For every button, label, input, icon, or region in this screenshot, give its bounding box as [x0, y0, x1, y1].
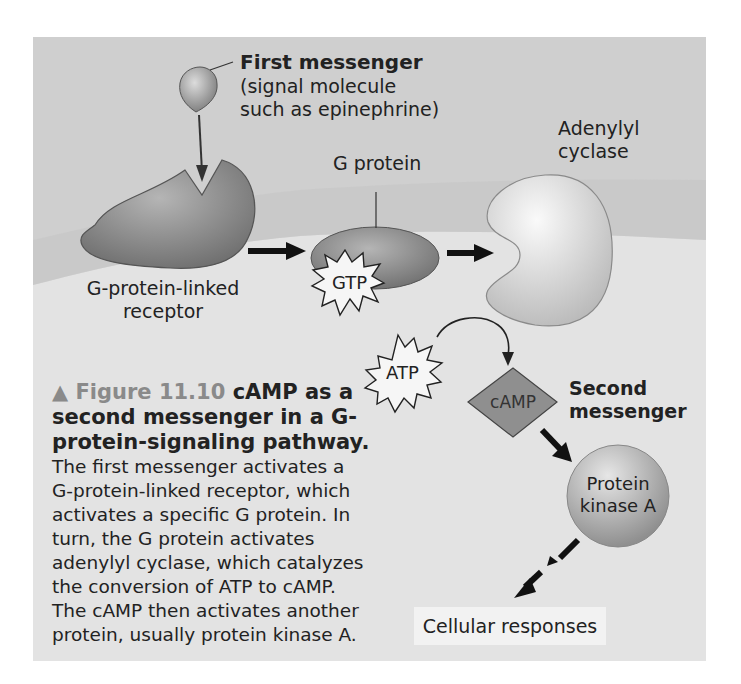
caption-body-line: turn, the G protein activates	[52, 527, 372, 551]
caption-title: ▲ Figure 11.10 cAMP as a	[52, 380, 372, 405]
caption-body-line: adenylyl cyclase, which catalyzes	[52, 551, 372, 575]
receptor-label-1: G-protein-linked	[68, 277, 258, 299]
cellular-responses-box: Cellular responses	[414, 607, 606, 645]
caption-body-line: The cAMP then activates another	[52, 599, 372, 623]
caption-body-line: activates a specific G protein. In	[52, 503, 372, 527]
caption-title-line-2: second messenger in a G-	[52, 405, 372, 430]
caption-title-line-1: cAMP as a	[233, 380, 353, 404]
figure-number: ▲ Figure 11.10	[52, 380, 225, 404]
pka-label-1: Protein	[568, 473, 668, 495]
second-messenger-label-1: Second	[569, 377, 647, 399]
adenylyl-cyclase-shape	[486, 175, 612, 326]
figure-caption: ▲ Figure 11.10 cAMP as a second messenge…	[52, 380, 372, 647]
first-messenger-desc-1: (signal molecule	[240, 75, 396, 97]
first-messenger-desc-2: such as epinephrine)	[240, 98, 439, 120]
g-protein-label: G protein	[333, 152, 421, 174]
first-messenger-title: First messenger	[240, 51, 423, 73]
caption-title-line-3: protein-signaling pathway.	[52, 430, 372, 455]
gtp-label: GTP	[322, 272, 377, 294]
atp-label: ATP	[375, 362, 430, 384]
second-messenger-label-2: messenger	[569, 400, 687, 422]
receptor-label-2: receptor	[68, 300, 258, 322]
caption-body-line: The first messenger activates a	[52, 455, 372, 479]
camp-label: cAMP	[478, 391, 548, 413]
pka-label-2: kinase A	[568, 495, 668, 517]
caption-body-line: protein, usually protein kinase A.	[52, 623, 372, 647]
caption-body-line: G-protein-linked receptor, which	[52, 479, 372, 503]
caption-body-line: the conversion of ATP to cAMP.	[52, 575, 372, 599]
adenylyl-cyclase-label-1: Adenylyl	[558, 117, 640, 139]
adenylyl-cyclase-label-2: cyclase	[558, 140, 629, 162]
